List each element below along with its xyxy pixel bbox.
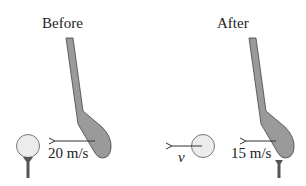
after-panel: After 15 m/s v: [172, 15, 294, 178]
before-club-speed: 20 m/s: [48, 145, 89, 161]
ball-speed-label: v: [178, 149, 185, 165]
after-club-speed: 15 m/s: [231, 145, 272, 161]
golf-club-icon: [249, 38, 294, 158]
tee-icon: [275, 160, 283, 178]
golf-ball-icon: [17, 135, 40, 158]
golf-club-icon: [66, 38, 111, 158]
golf-collision-diagram: Before 20 m/s After 15 m/s v: [0, 0, 306, 186]
before-panel: Before 20 m/s: [17, 15, 112, 178]
before-title: Before: [42, 15, 83, 31]
tee-icon: [23, 157, 33, 178]
after-title: After: [217, 15, 249, 31]
